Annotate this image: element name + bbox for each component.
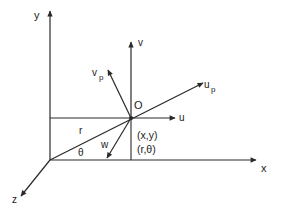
diagram-canvas: y x z O (x,y) (r,θ) v u w u p v p r θ — [0, 0, 281, 211]
vp-vector-arrow — [108, 70, 131, 118]
z-axis — [21, 160, 50, 196]
cartesian-coords-label: (x,y) — [137, 129, 157, 141]
w-vector-label: w — [100, 139, 109, 150]
vp-vector-label: v p — [92, 67, 104, 82]
up-vector-label: u p — [204, 79, 216, 94]
vectors — [50, 42, 203, 160]
up-sub-label: p — [211, 85, 216, 94]
angle-theta-label: θ — [78, 147, 84, 158]
u-vector-label: u — [179, 112, 185, 123]
w-vector-arrow — [107, 118, 131, 158]
polar-coords-label: (r,θ) — [137, 143, 156, 155]
point-o-label: O — [134, 99, 143, 111]
y-axis-label: y — [34, 9, 40, 21]
radius-label: r — [79, 125, 83, 136]
z-axis-label: z — [12, 194, 17, 205]
x-axis-label: x — [261, 162, 267, 174]
vp-main-label: v — [92, 67, 97, 78]
up-main-label: u — [204, 79, 210, 90]
point-o-dot — [129, 116, 133, 120]
v-vector-label: v — [138, 37, 143, 48]
vp-sub-label: p — [99, 73, 104, 82]
